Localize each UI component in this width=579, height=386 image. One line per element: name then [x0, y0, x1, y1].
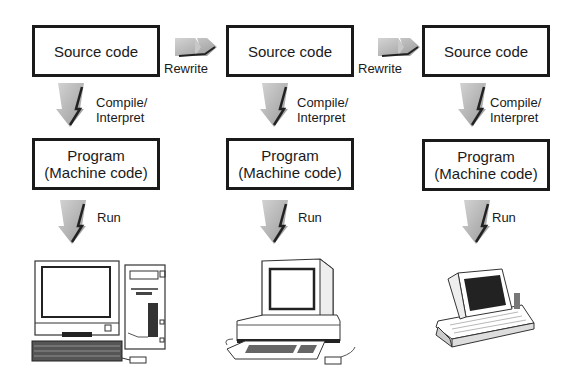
desktop-tower-computer-icon	[28, 255, 178, 365]
down-arrow-icon	[58, 200, 88, 244]
rewrite-arrow-icon	[175, 36, 217, 58]
source-code-label: Source code	[444, 43, 528, 60]
rewrite-label: Rewrite	[358, 61, 402, 76]
program-label: Program	[67, 147, 125, 164]
rewrite-arrow-icon	[378, 36, 420, 58]
run-label: Run	[298, 210, 322, 225]
source-code-label: Source code	[54, 43, 138, 60]
down-arrow-icon	[260, 200, 290, 244]
run-label: Run	[97, 210, 121, 225]
machine-code-label: (Machine code)	[44, 164, 147, 181]
down-arrow-icon	[56, 83, 86, 127]
program-box: Program(Machine code)	[32, 138, 160, 190]
desktop-workstation-computer-icon	[225, 255, 365, 365]
down-arrow-icon	[458, 83, 488, 127]
source-code-box: Source code	[32, 25, 160, 77]
program-box: Program(Machine code)	[226, 138, 354, 190]
down-arrow-icon	[260, 83, 290, 127]
source-code-label: Source code	[248, 43, 332, 60]
machine-code-label: (Machine code)	[434, 165, 537, 182]
down-arrow-icon	[462, 200, 492, 244]
compile-interpret-label: Compile/ Interpret	[297, 95, 348, 125]
compile-interpret-label: Compile/ Interpret	[490, 95, 541, 125]
program-label: Program	[457, 148, 515, 165]
source-code-box: Source code	[422, 25, 550, 77]
laptop-computer-icon	[430, 265, 540, 360]
source-code-box: Source code	[226, 25, 354, 77]
rewrite-label: Rewrite	[164, 61, 208, 76]
program-label: Program	[261, 147, 319, 164]
run-label: Run	[492, 210, 516, 225]
program-box: Program(Machine code)	[422, 139, 550, 191]
machine-code-label: (Machine code)	[238, 164, 341, 181]
compile-interpret-label: Compile/ Interpret	[96, 95, 147, 125]
